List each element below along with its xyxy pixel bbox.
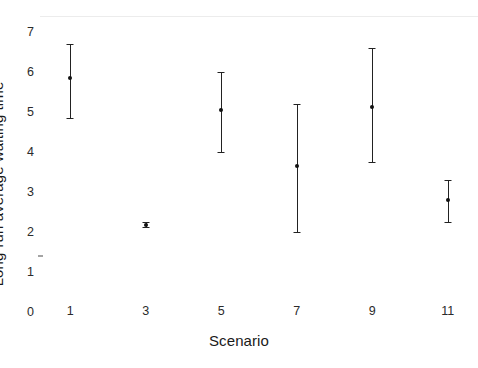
error-bar [70, 44, 71, 118]
error-bar-cap-lower [218, 152, 225, 153]
error-bar-cap-lower [293, 232, 300, 233]
y-tick-label: 1 [8, 266, 34, 279]
x-tick-label: 7 [293, 305, 300, 318]
x-axis-ticks: 1357911 [40, 305, 478, 323]
data-point [446, 198, 450, 202]
y-tick-label: 6 [8, 66, 34, 79]
plot-area [40, 16, 478, 296]
error-bar-cap-upper [444, 180, 451, 181]
error-bar-cap-upper [67, 44, 74, 45]
data-point [68, 76, 72, 80]
chart-figure: Long-run average waiting time 01234567 1… [0, 0, 478, 368]
error-bar [297, 104, 298, 232]
x-tick-label: 5 [218, 305, 225, 318]
y-tick-label: 3 [8, 186, 34, 199]
error-bar-cap-lower [369, 162, 376, 163]
y-tick-mark [38, 256, 43, 257]
error-bar [221, 72, 222, 152]
y-tick-label: 5 [8, 106, 34, 119]
error-bar-cap-lower [67, 118, 74, 119]
x-tick-label: 11 [441, 305, 454, 318]
x-tick-label: 3 [142, 305, 149, 318]
x-axis-title: Scenario [0, 332, 478, 349]
data-point [219, 108, 223, 112]
error-bar-cap-upper [369, 48, 376, 49]
error-bar-cap-upper [293, 104, 300, 105]
gridline [40, 16, 478, 17]
data-point [370, 105, 374, 109]
y-axis-ticks: 01234567 [0, 16, 34, 296]
data-point [295, 164, 299, 168]
data-point [144, 223, 148, 227]
x-tick-label: 1 [67, 305, 74, 318]
error-bar-cap-lower [142, 227, 149, 228]
x-tick-label: 9 [369, 305, 376, 318]
y-tick-label: 2 [8, 226, 34, 239]
y-tick-label: 0 [8, 306, 34, 319]
error-bar-cap-lower [444, 222, 451, 223]
y-tick-label: 7 [8, 26, 34, 39]
error-bar-cap-upper [218, 72, 225, 73]
y-tick-label: 4 [8, 146, 34, 159]
